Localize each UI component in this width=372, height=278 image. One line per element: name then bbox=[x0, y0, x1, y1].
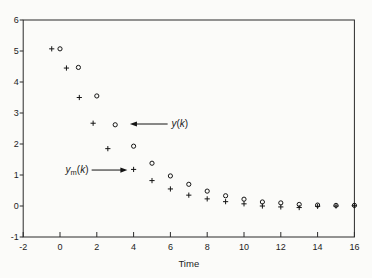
annotation-label: y(k) bbox=[171, 118, 189, 129]
chart-svg: -20246810121416Time-10123456y(k)ym(k) bbox=[0, 0, 372, 278]
circle-marker bbox=[224, 194, 228, 198]
x-tick-label: 6 bbox=[168, 242, 173, 252]
y-tick-label: 6 bbox=[14, 15, 19, 25]
x-tick-label: 4 bbox=[131, 242, 136, 252]
series-ym(k) bbox=[49, 46, 357, 210]
series-y(k) bbox=[58, 47, 357, 208]
circle-marker bbox=[187, 182, 191, 186]
x-tick-label: -2 bbox=[19, 242, 27, 252]
circle-marker bbox=[58, 47, 62, 51]
x-axis-title: Time bbox=[178, 258, 199, 269]
circle-marker bbox=[242, 197, 246, 201]
annotation-arrow-head bbox=[120, 167, 127, 172]
x-tick-label: 10 bbox=[239, 242, 249, 252]
label-y-of-k: y(k) bbox=[130, 118, 188, 129]
plot-frame bbox=[23, 20, 354, 237]
y-tick-label: 1 bbox=[14, 170, 19, 180]
y-tick-label: 4 bbox=[14, 77, 19, 87]
circle-marker bbox=[95, 94, 99, 98]
y-tick-label: 3 bbox=[14, 108, 19, 118]
circle-marker bbox=[168, 174, 172, 178]
y-axis: -10123456 bbox=[11, 15, 24, 242]
figure: -20246810121416Time-10123456y(k)ym(k) bbox=[0, 0, 372, 278]
x-tick-label: 16 bbox=[349, 242, 359, 252]
circle-marker bbox=[150, 161, 154, 165]
annotation-arrow-head bbox=[130, 121, 137, 126]
y-tick-label: 2 bbox=[14, 139, 19, 149]
label-ym-of-k: ym(k) bbox=[65, 164, 128, 177]
circle-marker bbox=[205, 189, 209, 193]
circle-marker bbox=[76, 65, 80, 69]
x-tick-label: 8 bbox=[205, 242, 210, 252]
x-tick-label: 14 bbox=[313, 242, 323, 252]
y-tick-label: 0 bbox=[14, 201, 19, 211]
y-tick-label: 5 bbox=[14, 46, 19, 56]
x-tick-label: 0 bbox=[57, 242, 62, 252]
x-tick-label: 2 bbox=[94, 242, 99, 252]
circle-marker bbox=[113, 123, 117, 127]
x-tick-label: 12 bbox=[276, 242, 286, 252]
circle-marker bbox=[132, 144, 136, 148]
y-tick-label: -1 bbox=[11, 232, 19, 242]
annotation-label: ym(k) bbox=[65, 164, 89, 177]
